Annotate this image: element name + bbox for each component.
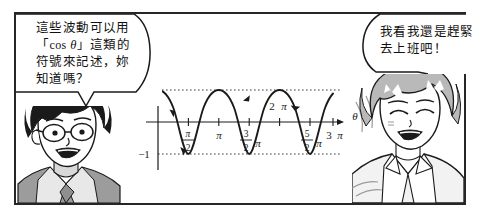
svg-text:π: π — [186, 129, 191, 139]
x-tick-label-3pi: 3 π — [326, 129, 343, 141]
bubble-left-line2-pre: 「 — [36, 38, 49, 52]
svg-text:3: 3 — [326, 129, 332, 141]
x-tick-label-2pi: 2 π — [269, 100, 287, 112]
svg-text:π: π — [337, 129, 343, 141]
bubble-left-line2-post: 」這類的 — [77, 38, 131, 52]
svg-text:5: 5 — [305, 129, 310, 139]
bubble-left-line-3: 符號來記述，妳 — [36, 54, 162, 71]
bubble-right-line-1: 我看我還是趕緊 — [380, 24, 466, 41]
comic-strip: 1 −1 π 2 π 3 2 π 2 π — [0, 0, 480, 220]
svg-text:π: π — [281, 100, 287, 112]
woman-smiling — [352, 62, 464, 203]
bubble-left-line-4: 知道嗎？ — [36, 71, 162, 88]
svg-text:2: 2 — [244, 143, 249, 153]
svg-text:π: π — [316, 137, 322, 149]
svg-text:2: 2 — [186, 143, 191, 153]
speech-bubble-left-text: 這些波動可以用 「cos θ」這類的 符號來記述，妳 知道嗎？ — [16, 14, 162, 88]
svg-text:3: 3 — [244, 129, 249, 139]
x-axis-label-theta: θ — [352, 110, 358, 122]
x-tick-label-pi: π — [216, 129, 222, 141]
bubble-left-line2-fn: cos — [49, 38, 66, 52]
svg-text:π: π — [255, 137, 261, 149]
bubble-left-line-2: 「cos θ」這類的 — [36, 37, 162, 54]
bubble-right-line-2: 去上班吧！ — [380, 41, 466, 58]
speech-bubble-right-text: 我看我還是趕緊 去上班吧！ — [358, 14, 466, 58]
svg-text:2: 2 — [269, 100, 275, 112]
speech-bubble-left: 這些波動可以用 「cos θ」這類的 符號來記述，妳 知道嗎？ — [16, 14, 162, 106]
y-tick-label-neg1: −1 — [138, 148, 150, 160]
cosine-graph: 1 −1 π 2 π 3 2 π 2 π — [144, 62, 360, 188]
bubble-left-line-1: 這些波動可以用 — [36, 20, 162, 37]
svg-text:2: 2 — [305, 143, 310, 153]
speech-bubble-right: 我看我還是趕緊 去上班吧！ — [358, 14, 466, 74]
x-axis-arrow — [337, 119, 344, 125]
